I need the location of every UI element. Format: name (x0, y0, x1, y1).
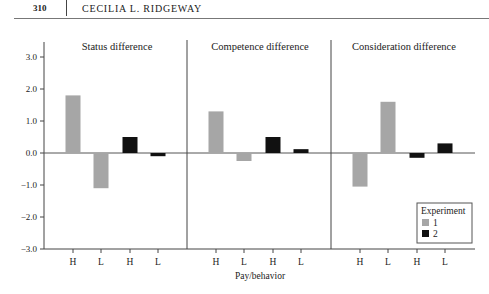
legend-swatch (422, 219, 429, 226)
bar (151, 153, 166, 156)
legend-swatch (422, 230, 429, 237)
x-tick-label: H (213, 257, 220, 267)
bar (381, 102, 396, 153)
panel-title: Competence difference (211, 41, 309, 52)
y-tick-label: −3.0 (21, 244, 38, 254)
x-tick-label: H (270, 257, 277, 267)
bar (266, 137, 281, 153)
bar-chart: 3.02.01.00.0−1.0−2.0−3.0Status differenc… (0, 0, 489, 294)
x-tick-label: L (385, 257, 391, 267)
x-tick-label: L (155, 257, 161, 267)
bar (123, 137, 138, 153)
panel-title: Consideration difference (352, 41, 456, 52)
bar (438, 143, 453, 153)
bar (237, 153, 252, 161)
legend-title: Experiment (421, 206, 466, 216)
legend-label: 2 (433, 229, 438, 239)
panel-title: Status difference (82, 41, 153, 52)
y-tick-label: −1.0 (21, 180, 38, 190)
bar (94, 153, 109, 188)
y-tick-label: 3.0 (26, 52, 38, 62)
y-tick-label: 2.0 (26, 84, 38, 94)
bar (294, 149, 309, 153)
x-axis-label: Pay/behavior (235, 271, 286, 281)
x-tick-label: H (70, 257, 77, 267)
bar (353, 153, 368, 187)
bar (66, 95, 81, 153)
y-tick-label: 1.0 (26, 116, 38, 126)
x-tick-label: L (241, 257, 247, 267)
y-tick-label: −2.0 (21, 212, 38, 222)
x-tick-label: L (98, 257, 104, 267)
x-tick-label: H (127, 257, 134, 267)
x-tick-label: L (298, 257, 304, 267)
x-tick-label: L (442, 257, 448, 267)
bar (209, 111, 224, 153)
x-tick-label: H (357, 257, 364, 267)
y-tick-label: 0.0 (26, 148, 38, 158)
bar (410, 153, 425, 158)
legend-label: 1 (433, 218, 438, 228)
x-tick-label: H (414, 257, 421, 267)
